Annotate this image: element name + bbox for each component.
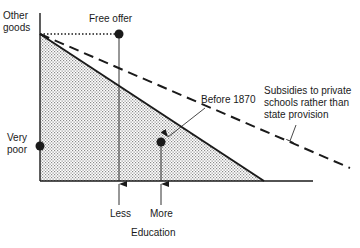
free-offer-label: Free offer xyxy=(89,13,132,25)
subsidies-annotation: Subsidies to private schools rather than… xyxy=(264,85,351,121)
education-budget-diagram xyxy=(0,0,360,248)
subsidies-leader xyxy=(290,125,296,141)
free-offer-point xyxy=(115,30,124,39)
x-axis-label: Education xyxy=(131,227,175,239)
very-poor-label: Very poor xyxy=(7,132,27,156)
more-label: More xyxy=(150,208,173,220)
very-poor-point xyxy=(36,142,45,151)
less-label: Less xyxy=(110,208,131,220)
before-1870-point xyxy=(157,138,166,147)
before-1870-label: Before 1870 xyxy=(201,94,256,106)
y-axis-label: Other goods xyxy=(3,10,30,34)
